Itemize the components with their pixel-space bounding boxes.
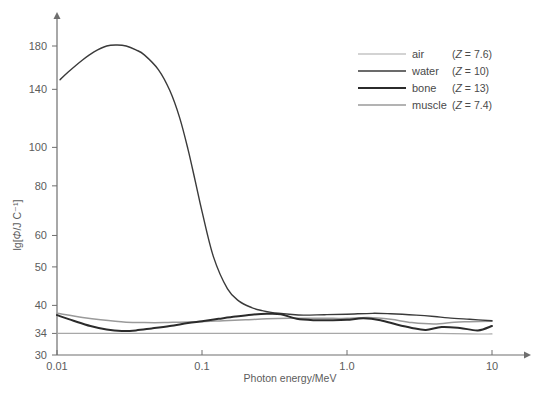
legend-label-water: water — [411, 65, 439, 77]
x-tick-label: 0.1 — [194, 360, 209, 372]
x-tick-label: 10 — [486, 360, 498, 372]
legend-z-air: (Z = 7.6) — [452, 48, 492, 60]
y-tick-label: 100 — [29, 141, 47, 153]
chart-figure: 303440506080100140180 0.010.11.010 Photo… — [0, 0, 540, 399]
y-tick-label: 180 — [29, 40, 47, 52]
y-tick-label: 140 — [29, 83, 47, 95]
y-tick-label: 50 — [35, 261, 47, 273]
y-axis-ticks: 303440506080100140180 — [29, 40, 57, 361]
y-axis-title-prefix: lg[ — [11, 239, 23, 250]
y-tick-label: 40 — [35, 299, 47, 311]
y-axis-title: lg[Φ/J C⁻¹] — [11, 199, 23, 250]
chart-legend: air(Z = 7.6)water(Z = 10)bone(Z = 13)mus… — [358, 48, 492, 111]
legend-label-bone: bone — [412, 82, 436, 94]
legend-label-muscle: muscle — [412, 99, 447, 111]
y-tick-label: 80 — [35, 180, 47, 192]
y-axis-title-suffix: /J C⁻¹] — [11, 199, 23, 230]
legend-label-air: air — [412, 48, 425, 60]
y-tick-label: 30 — [35, 349, 47, 361]
series-line-muscle — [57, 313, 492, 324]
y-tick-label: 60 — [35, 229, 47, 241]
legend-z-bone: (Z = 13) — [452, 82, 489, 94]
x-tick-label: 0.01 — [46, 360, 67, 372]
legend-z-water: (Z = 10) — [452, 65, 489, 77]
legend-z-muscle: (Z = 7.4) — [452, 99, 492, 111]
y-axis-title-symbol: Φ — [11, 230, 23, 239]
x-axis-ticks: 0.010.11.010 — [46, 350, 498, 372]
series-line-air — [57, 333, 492, 334]
x-axis-title: Photon energy/MeV — [244, 372, 337, 384]
x-tick-label: 1.0 — [339, 360, 354, 372]
y-tick-label: 34 — [35, 327, 47, 339]
chart-canvas: 303440506080100140180 0.010.11.010 Photo… — [0, 0, 540, 399]
